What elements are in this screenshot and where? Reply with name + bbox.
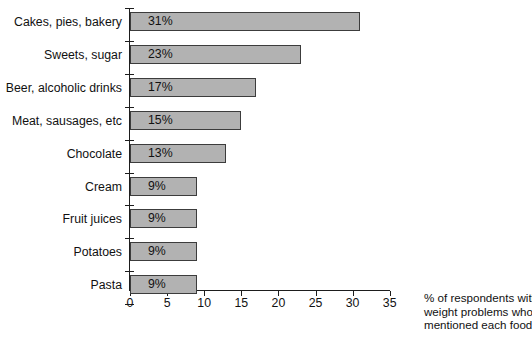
y-axis-tick (125, 173, 134, 174)
bar-row: Chocolate13% (0, 144, 532, 164)
x-axis-tick-label: 10 (189, 296, 219, 310)
category-label: Cream (0, 177, 122, 197)
category-label: Cakes, pies, bakery (0, 12, 122, 32)
y-axis-tick (125, 205, 134, 206)
bar-row: Cream9% (0, 177, 532, 197)
x-axis-tick-label: 0 (115, 296, 145, 310)
bar (130, 144, 226, 163)
bar-row: Meat, sausages, etc15% (0, 111, 532, 131)
bar-value-label: 17% (148, 78, 173, 97)
y-axis-tick (125, 107, 134, 108)
y-axis-tick (125, 271, 134, 272)
caption-line-3: mentioned each food (424, 318, 532, 332)
bar-row: Fruit juices9% (0, 209, 532, 229)
bar-chart: Cakes, pies, bakery31%Sweets, sugar23%Be… (0, 0, 532, 348)
bar-value-label: 9% (148, 177, 166, 196)
y-axis-tick (125, 140, 134, 141)
caption-line-2: weight problems who (424, 305, 532, 319)
x-axis-tick-label: 25 (301, 296, 331, 310)
category-label: Meat, sausages, etc (0, 111, 122, 131)
y-axis-tick (125, 238, 134, 239)
y-axis-tick (125, 74, 134, 75)
category-label: Sweets, sugar (0, 45, 122, 65)
bar-value-label: 15% (148, 111, 173, 130)
category-label: Fruit juices (0, 209, 122, 229)
bar-value-label: 13% (148, 144, 173, 163)
x-axis-tick-label: 5 (152, 296, 182, 310)
bar-value-label: 31% (148, 12, 173, 31)
axis-caption: % of respondents with weight problems wh… (424, 291, 532, 332)
x-axis-tick-label: 20 (263, 296, 293, 310)
category-label: Beer, alcoholic drinks (0, 78, 122, 98)
bar-value-label: 9% (148, 242, 166, 261)
bar-row: Cakes, pies, bakery31% (0, 12, 532, 32)
x-axis-tick-label: 30 (338, 296, 368, 310)
caption-line-1: % of respondents with (424, 291, 532, 305)
bar-value-label: 9% (148, 275, 166, 294)
bar-value-label: 23% (148, 45, 173, 64)
x-axis-tick-label: 15 (226, 296, 256, 310)
category-label: Pasta (0, 275, 122, 295)
bar-value-label: 9% (148, 209, 166, 228)
x-axis-tick-label: 35 (375, 296, 405, 310)
y-axis-tick (125, 8, 134, 9)
bar-row: Sweets, sugar23% (0, 45, 532, 65)
y-axis-tick (125, 41, 134, 42)
category-label: Potatoes (0, 242, 122, 262)
bar-row: Beer, alcoholic drinks17% (0, 78, 532, 98)
bar (130, 111, 241, 130)
category-label: Chocolate (0, 144, 122, 164)
bar-row: Potatoes9% (0, 242, 532, 262)
